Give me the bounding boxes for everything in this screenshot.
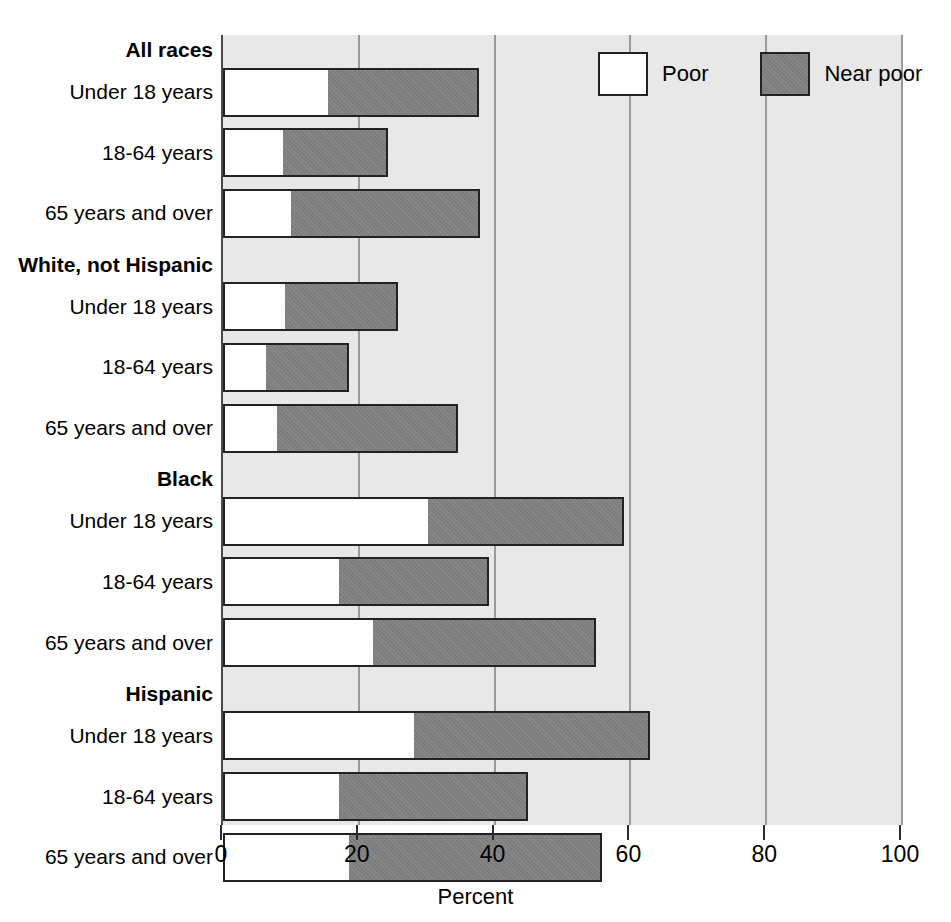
group-label-black: Black	[3, 467, 213, 491]
bar-segment-near-poor	[414, 711, 650, 760]
x-tick-20	[356, 825, 358, 840]
bar-segment-poor	[223, 711, 414, 760]
row-label: 18-64 years	[3, 570, 213, 594]
group-label-white-not-hispanic: White, not Hispanic	[3, 253, 213, 277]
bar-black-18-64-years	[223, 557, 489, 606]
row-label: Under 18 years	[3, 724, 213, 748]
bar-white-not-hispanic-65-years-and-over	[223, 404, 458, 453]
x-tick-40	[492, 825, 494, 840]
row-label: Under 18 years	[3, 80, 213, 104]
row-label: 18-64 years	[3, 785, 213, 809]
x-tick-label-40: 40	[480, 841, 506, 867]
plot-area	[221, 35, 902, 825]
bar-segment-poor	[223, 557, 339, 606]
bar-segment-near-poor	[349, 833, 602, 882]
row-label: 65 years and over	[3, 416, 213, 440]
bar-segment-near-poor	[373, 618, 596, 667]
x-tick-label-20: 20	[344, 841, 370, 867]
x-tick-0	[220, 825, 222, 840]
bar-white-not-hispanic-18-64-years	[223, 343, 349, 392]
gridline-60	[629, 35, 631, 825]
bar-black-under-18-years	[223, 497, 624, 546]
bar-all-races-18-64-years	[223, 128, 388, 177]
bar-segment-poor	[223, 128, 283, 177]
x-tick-label-100: 100	[881, 841, 919, 867]
bar-segment-poor	[223, 189, 291, 238]
x-tick-label-80: 80	[751, 841, 777, 867]
legend: Poor Near poor	[598, 52, 922, 96]
bar-hispanic-65-years-and-over	[223, 833, 602, 882]
gridline-80	[765, 35, 767, 825]
bar-black-65-years-and-over	[223, 618, 596, 667]
bar-segment-near-poor	[266, 343, 350, 392]
bar-segment-poor	[223, 497, 428, 546]
bar-segment-poor	[223, 282, 285, 331]
row-label: Under 18 years	[3, 509, 213, 533]
legend-item-poor: Poor	[598, 52, 708, 96]
bar-white-not-hispanic-under-18-years	[223, 282, 398, 331]
bar-segment-near-poor	[339, 557, 489, 606]
bar-segment-near-poor	[285, 282, 398, 331]
group-label-hispanic: Hispanic	[3, 682, 213, 706]
legend-swatch-poor-icon	[598, 52, 648, 96]
x-tick-80	[763, 825, 765, 840]
gridline-40	[494, 35, 496, 825]
group-label-all-races: All races	[3, 38, 213, 62]
bar-segment-poor	[223, 68, 328, 117]
bar-segment-poor	[223, 343, 266, 392]
bar-segment-poor	[223, 833, 349, 882]
row-label: 18-64 years	[3, 355, 213, 379]
row-label: Under 18 years	[3, 295, 213, 319]
bar-segment-near-poor	[428, 497, 624, 546]
legend-label-poor: Poor	[662, 62, 708, 86]
bar-segment-near-poor	[277, 404, 458, 453]
stacked-bar-chart: All racesUnder 18 years18-64 years65 yea…	[0, 0, 951, 922]
bar-all-races-under-18-years	[223, 68, 479, 117]
legend-label-near-poor: Near poor	[824, 62, 922, 86]
bar-hispanic-18-64-years	[223, 772, 528, 821]
bar-segment-near-poor	[328, 68, 479, 117]
y-axis-labels: All racesUnder 18 years18-64 years65 yea…	[0, 0, 213, 830]
x-tick-60	[627, 825, 629, 840]
bar-segment-near-poor	[339, 772, 528, 821]
legend-item-near-poor: Near poor	[760, 52, 922, 96]
gridline-100	[901, 35, 903, 825]
x-tick-label-60: 60	[616, 841, 642, 867]
x-tick-label-0: 0	[215, 841, 228, 867]
row-label: 18-64 years	[3, 141, 213, 165]
bar-segment-poor	[223, 772, 339, 821]
bar-segment-poor	[223, 618, 373, 667]
row-label: 65 years and over	[3, 631, 213, 655]
row-label: 65 years and over	[3, 201, 213, 225]
row-label: 65 years and over	[3, 845, 213, 869]
bar-segment-near-poor	[283, 128, 388, 177]
bar-segment-poor	[223, 404, 277, 453]
x-axis-title: Percent	[0, 884, 951, 910]
legend-swatch-near-poor-icon	[760, 52, 810, 96]
bar-all-races-65-years-and-over	[223, 189, 480, 238]
bar-hispanic-under-18-years	[223, 711, 650, 760]
bar-segment-near-poor	[291, 189, 480, 238]
x-tick-100	[899, 825, 901, 840]
